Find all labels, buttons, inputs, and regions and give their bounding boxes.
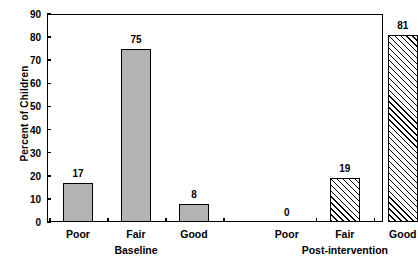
x-axis-tick-mark [107, 218, 109, 222]
y-axis-tick-label: 30 [30, 147, 41, 158]
y-axis-tick-mark [47, 152, 51, 154]
y-axis-tick-label: 90 [30, 9, 41, 20]
x-axis-tick-mark [223, 218, 225, 222]
x-axis-category-label: Fair [126, 228, 145, 240]
bar-value-label: 8 [191, 189, 197, 200]
x-axis-group-label: Post-intervention [302, 244, 388, 256]
y-axis-tick-mark [47, 83, 51, 85]
y-axis-tick-mark [47, 106, 51, 108]
y-axis-tick-label: 10 [30, 193, 41, 204]
x-axis-tick-mark [49, 218, 51, 222]
y-axis-tick-label: 80 [30, 32, 41, 43]
y-axis-tick-mark [47, 13, 51, 15]
bar-value-label: 81 [397, 20, 408, 31]
y-axis-tick-mark [47, 175, 51, 177]
x-axis-tick-mark [165, 218, 167, 222]
y-axis-title: Percent of Children [19, 44, 30, 184]
y-axis-tick-mark [47, 198, 51, 200]
plot-right-border [382, 14, 383, 222]
x-axis-category-label: Fair [335, 228, 354, 240]
y-axis-tick-label: 40 [30, 124, 41, 135]
bar-value-label: 17 [72, 168, 83, 179]
x-axis-category-label: Poor [66, 228, 90, 240]
bar [63, 183, 93, 222]
x-axis-category-label: Good [180, 228, 207, 240]
bar [179, 204, 209, 222]
bar-value-label: 19 [339, 163, 350, 174]
bar [121, 49, 151, 222]
y-axis-tick-mark [47, 36, 51, 38]
y-axis-tick-label: 60 [30, 78, 41, 89]
y-axis-tick-label: 70 [30, 55, 41, 66]
x-axis-category-label: Good [389, 228, 416, 240]
x-axis-tick-mark [374, 218, 376, 222]
x-axis-group-label: Baseline [114, 244, 157, 256]
x-axis-tick-mark [316, 218, 318, 222]
y-axis-tick-mark [47, 129, 51, 131]
bar [330, 178, 360, 222]
y-axis-tick-label: 50 [30, 101, 41, 112]
x-axis-category-label: Poor [275, 228, 299, 240]
bar [388, 35, 418, 222]
y-axis-tick-label: 0 [35, 217, 41, 228]
plot-top-border [47, 14, 383, 15]
y-axis-tick-mark [47, 59, 51, 61]
y-axis-tick-label: 20 [30, 170, 41, 181]
bar-value-label: 0 [284, 207, 290, 218]
bar-value-label: 75 [130, 34, 141, 45]
